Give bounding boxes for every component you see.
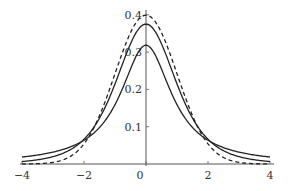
tick-layer: −4−20240.10.20.30.4 [14, 9, 274, 182]
y-tick-label: 0.2 [125, 83, 143, 96]
x-tick-label: 2 [205, 169, 212, 182]
x-tick-label: 4 [267, 169, 274, 182]
x-tick-label: −4 [14, 169, 30, 182]
y-tick-label: 0.1 [125, 121, 143, 134]
density-chart: −4−20240.10.20.30.4 [0, 0, 291, 191]
x-tick-label: −2 [76, 169, 92, 182]
x-tick-label: 0 [137, 169, 144, 182]
y-tick-label: 0.4 [125, 9, 143, 22]
